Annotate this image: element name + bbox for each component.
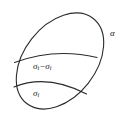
sigma-difference-label: σt−σi [33, 62, 52, 72]
sigma-i-subscript-middle: i [50, 64, 52, 71]
ellipse-region-diagram: α σt−σi σi [0, 0, 126, 125]
lower-divider-arc-shape [14, 82, 87, 94]
alpha-label: α [110, 29, 115, 38]
upper-divider-arc-shape [15, 54, 98, 63]
sigma-i-label: σi [33, 89, 39, 99]
diagram-strokes [0, 0, 122, 125]
sigma-i-subscript-bottom: i [37, 91, 39, 98]
outer-ellipse-shape [0, 0, 122, 125]
diagram-canvas [0, 0, 126, 125]
